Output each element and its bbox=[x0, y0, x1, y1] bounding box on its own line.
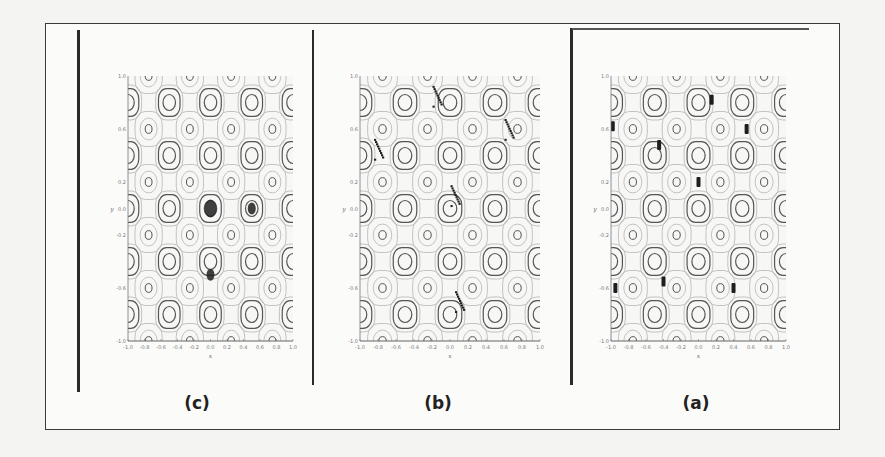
svg-text:0.0: 0.0 bbox=[446, 344, 454, 350]
svg-text:0.4: 0.4 bbox=[482, 344, 490, 350]
svg-text:-0.6: -0.6 bbox=[641, 344, 651, 350]
svg-text:0.2: 0.2 bbox=[350, 179, 358, 185]
svg-text:1.0: 1.0 bbox=[118, 73, 126, 79]
svg-text:1.0: 1.0 bbox=[601, 73, 609, 79]
svg-text:0.0: 0.0 bbox=[350, 206, 358, 212]
svg-text:y: y bbox=[592, 205, 597, 213]
svg-text:0.0: 0.0 bbox=[207, 344, 215, 350]
svg-text:0.2: 0.2 bbox=[601, 179, 609, 185]
svg-text:0.2: 0.2 bbox=[223, 344, 231, 350]
svg-text:-0.8: -0.8 bbox=[140, 344, 150, 350]
svg-text:0.6: 0.6 bbox=[747, 344, 755, 350]
contour-plot-a: -1.0-0.8-0.6-0.4-0.20.00.20.40.60.81.01.… bbox=[603, 76, 788, 361]
svg-text:-1.0: -1.0 bbox=[355, 344, 365, 350]
svg-text:0.8: 0.8 bbox=[273, 344, 281, 350]
svg-text:0.0: 0.0 bbox=[601, 206, 609, 212]
svg-text:-0.2: -0.2 bbox=[676, 344, 686, 350]
svg-text:0.6: 0.6 bbox=[350, 126, 358, 132]
svg-text:-1.0: -1.0 bbox=[116, 338, 126, 344]
svg-text:0.2: 0.2 bbox=[464, 344, 472, 350]
svg-text:-0.2: -0.2 bbox=[427, 344, 437, 350]
plot-panel-a: -1.0-0.8-0.6-0.4-0.20.00.20.40.60.81.01.… bbox=[603, 76, 788, 361]
contour-plot-c: -1.0-0.8-0.6-0.4-0.20.00.20.40.60.81.01.… bbox=[120, 76, 295, 361]
svg-text:-0.6: -0.6 bbox=[156, 344, 166, 350]
svg-text:-0.4: -0.4 bbox=[659, 344, 669, 350]
plot-panel-b: -1.0-0.8-0.6-0.4-0.20.00.20.40.60.81.01.… bbox=[352, 76, 542, 361]
svg-text:1.0: 1.0 bbox=[289, 344, 297, 350]
panel-divider-right bbox=[570, 28, 573, 385]
svg-text:y: y bbox=[109, 205, 114, 213]
svg-text:x: x bbox=[209, 352, 213, 359]
svg-text:0.2: 0.2 bbox=[712, 344, 720, 350]
svg-text:1.0: 1.0 bbox=[782, 344, 790, 350]
panel-divider-middle bbox=[312, 30, 314, 385]
svg-text:-0.8: -0.8 bbox=[373, 344, 383, 350]
svg-text:x: x bbox=[697, 352, 701, 359]
panel-label-b: (b) bbox=[418, 393, 458, 413]
panel-divider-left bbox=[77, 30, 80, 392]
svg-text:-0.8: -0.8 bbox=[624, 344, 634, 350]
svg-text:0.6: 0.6 bbox=[256, 344, 264, 350]
svg-text:1.0: 1.0 bbox=[536, 344, 544, 350]
svg-text:0.0: 0.0 bbox=[695, 344, 703, 350]
svg-text:-0.2: -0.2 bbox=[116, 232, 126, 238]
svg-text:0.4: 0.4 bbox=[730, 344, 738, 350]
svg-text:0.6: 0.6 bbox=[601, 126, 609, 132]
svg-text:0.8: 0.8 bbox=[518, 344, 526, 350]
svg-text:0.0: 0.0 bbox=[118, 206, 126, 212]
svg-text:0.2: 0.2 bbox=[118, 179, 126, 185]
svg-text:0.8: 0.8 bbox=[765, 344, 773, 350]
panel-topline-right bbox=[572, 28, 809, 30]
svg-text:-1.0: -1.0 bbox=[599, 338, 609, 344]
svg-text:-0.2: -0.2 bbox=[348, 232, 358, 238]
svg-text:0.6: 0.6 bbox=[500, 344, 508, 350]
svg-text:-0.4: -0.4 bbox=[173, 344, 183, 350]
panel-label-a: (a) bbox=[676, 393, 716, 413]
svg-text:0.4: 0.4 bbox=[240, 344, 248, 350]
plot-panel-c: -1.0-0.8-0.6-0.4-0.20.00.20.40.60.81.01.… bbox=[120, 76, 295, 361]
svg-text:-1.0: -1.0 bbox=[348, 338, 358, 344]
svg-text:1.0: 1.0 bbox=[350, 73, 358, 79]
svg-text:-1.0: -1.0 bbox=[123, 344, 133, 350]
svg-text:-0.6: -0.6 bbox=[116, 285, 126, 291]
svg-text:-0.4: -0.4 bbox=[409, 344, 419, 350]
svg-text:0.6: 0.6 bbox=[118, 126, 126, 132]
svg-text:-0.6: -0.6 bbox=[391, 344, 401, 350]
svg-text:-0.6: -0.6 bbox=[599, 285, 609, 291]
svg-text:-0.2: -0.2 bbox=[189, 344, 199, 350]
svg-text:-0.2: -0.2 bbox=[599, 232, 609, 238]
contour-plot-b: -1.0-0.8-0.6-0.4-0.20.00.20.40.60.81.01.… bbox=[352, 76, 542, 361]
svg-text:-0.6: -0.6 bbox=[348, 285, 358, 291]
svg-text:y: y bbox=[341, 205, 346, 213]
svg-text:-1.0: -1.0 bbox=[606, 344, 616, 350]
svg-text:x: x bbox=[448, 352, 452, 359]
panel-label-c: (c) bbox=[177, 393, 217, 413]
